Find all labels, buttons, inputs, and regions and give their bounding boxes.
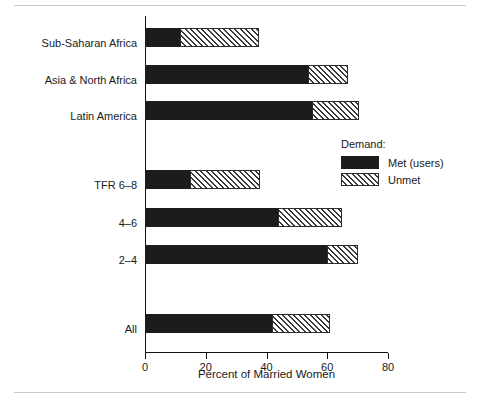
x-tick-60	[327, 353, 328, 359]
y-label-all: All	[2, 323, 137, 335]
bar-segment-unmet	[180, 28, 259, 47]
bar-segment-unmet	[308, 65, 348, 84]
legend-swatch-met-icon	[341, 156, 379, 169]
chart-figure: Sub-Saharan Africa Asia & North Africa L…	[0, 0, 480, 413]
bar-segment-unmet	[278, 208, 342, 227]
y-label-sub-saharan-africa: Sub-Saharan Africa	[2, 37, 137, 49]
legend-swatch-unmet-icon	[341, 173, 379, 186]
y-label-tfr-6-8: TFR 6–8	[2, 179, 137, 191]
x-tick-0	[145, 353, 146, 359]
y-axis-labels: Sub-Saharan Africa Asia & North Africa L…	[0, 16, 137, 352]
bar-segment-met	[145, 208, 278, 227]
x-tick-40	[267, 353, 268, 359]
bar-segment-unmet	[190, 170, 260, 189]
x-tick-80	[388, 353, 389, 359]
x-tick-20	[206, 353, 207, 359]
x-axis-title: Percent of Married Women	[145, 368, 388, 380]
bar-segment-unmet	[272, 314, 330, 333]
bar-segment-met	[145, 314, 272, 333]
bar-segment-unmet	[312, 101, 359, 120]
legend-item-met: Met (users)	[341, 156, 473, 169]
y-label-latin-america: Latin America	[2, 110, 137, 122]
y-label-tfr-2-4: 2–4	[2, 254, 137, 266]
bar-segment-met	[145, 170, 190, 189]
y-label-tfr-4-6: 4–6	[2, 217, 137, 229]
page-rule-top	[14, 5, 466, 6]
bar-segment-met	[145, 28, 180, 47]
page-rule-bottom	[14, 392, 466, 393]
bar-segment-met	[145, 101, 312, 120]
legend-item-unmet: Unmet	[341, 173, 473, 186]
bar-segment-met	[145, 245, 327, 264]
legend: Demand: Met (users) Unmet	[341, 138, 473, 190]
legend-label-met: Met (users)	[388, 157, 444, 169]
y-label-asia-north-africa: Asia & North Africa	[2, 74, 137, 86]
bar-segment-unmet	[327, 245, 358, 264]
legend-label-unmet: Unmet	[388, 174, 420, 186]
bar-segment-met	[145, 65, 308, 84]
legend-title: Demand:	[341, 138, 473, 150]
